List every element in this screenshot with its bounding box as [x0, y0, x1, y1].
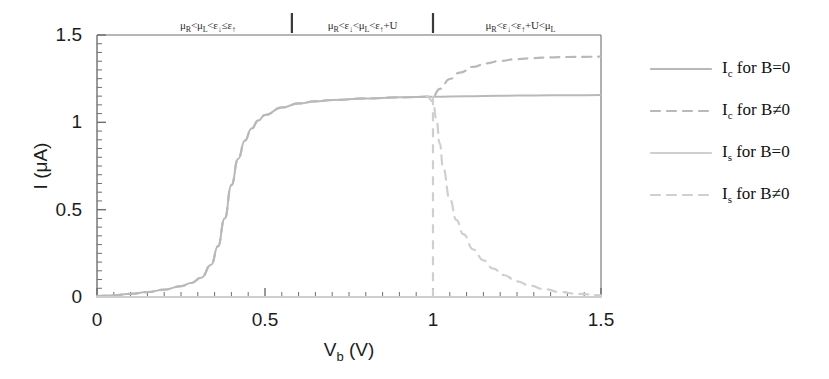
legend-swatch-dashed: [650, 188, 712, 202]
legend-label: Is for B=0: [722, 142, 790, 163]
series-line-2: [97, 57, 601, 296]
series-line-4: [426, 96, 601, 295]
legend-swatch-solid: [650, 62, 712, 76]
legend-item-3[interactable]: Is for B=0: [650, 132, 825, 174]
legend-item-4[interactable]: Is for B≠0: [650, 174, 825, 216]
axes-group: [97, 35, 601, 297]
data-series-group: [97, 57, 601, 297]
legend-swatch-dashed: [650, 104, 712, 118]
legend-label: Is for B≠0: [722, 184, 789, 205]
legend-item-1[interactable]: Ic for B=0: [650, 48, 825, 90]
region-separators: [292, 13, 433, 33]
figure-container: μR<μL<ε↓≤ε↑μR<ε↓<μL<ε↑+UμR<ε↓<ε↑+U<μL00.…: [0, 0, 829, 379]
chart-legend: Ic for B=0Ic for B≠0Is for B=0Is for B≠0: [650, 48, 825, 216]
legend-swatch-solid: [650, 146, 712, 160]
legend-label: Ic for B≠0: [722, 100, 790, 121]
series-line-1: [97, 95, 601, 296]
legend-item-2[interactable]: Ic for B≠0: [650, 90, 825, 132]
legend-label: Ic for B=0: [722, 58, 790, 79]
